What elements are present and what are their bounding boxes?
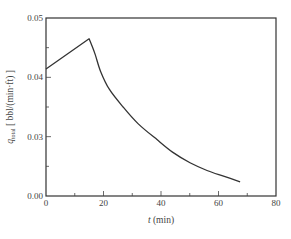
x-tick-label: 40: [157, 198, 167, 208]
x-tick-label: 20: [99, 198, 109, 208]
y-axis-title: qtotal [ bbl/(min·ft) ]: [5, 70, 16, 144]
x-tick-label: 80: [272, 198, 282, 208]
y-tick-label: 0.05: [27, 13, 43, 23]
y-axis-ticks: 0.000.030.040.05: [27, 13, 51, 201]
line-chart: 020406080 0.000.030.040.05 t (min) qtota…: [0, 0, 291, 239]
x-axis-ticks: 020406080: [44, 191, 281, 208]
x-axis-title: t (min): [148, 215, 174, 226]
y-tick-label: 0.00: [27, 191, 43, 201]
x-tick-label: 60: [214, 198, 224, 208]
y-tick-label: 0.04: [27, 72, 43, 82]
x-tick-label: 0: [44, 198, 49, 208]
series-line-q-total: [46, 39, 240, 182]
y-tick-label: 0.03: [27, 132, 43, 142]
data-series: [46, 39, 240, 182]
